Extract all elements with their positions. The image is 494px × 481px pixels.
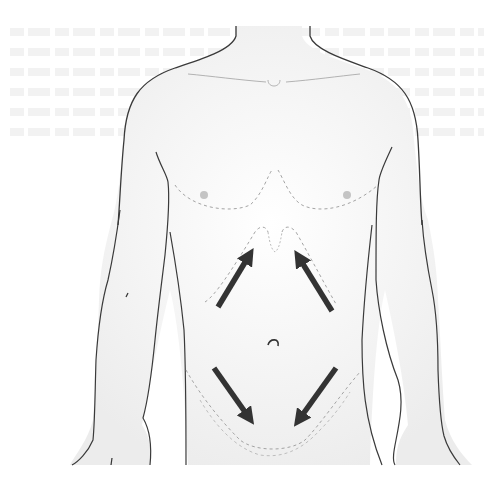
torso-illustration <box>0 0 494 481</box>
right-nipple <box>343 191 351 199</box>
left-nipple <box>200 191 208 199</box>
